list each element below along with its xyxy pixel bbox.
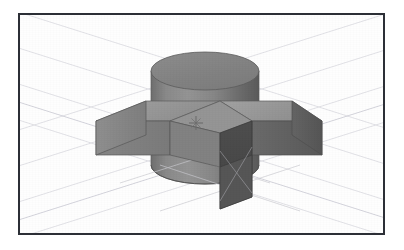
viewport-frame[interactable] xyxy=(18,13,385,235)
scene-canvas[interactable] xyxy=(20,15,383,233)
block-slot-interior[interactable] xyxy=(220,121,252,209)
cylinder-top-face[interactable] xyxy=(151,52,259,90)
app-root xyxy=(0,0,404,250)
